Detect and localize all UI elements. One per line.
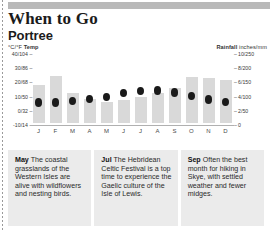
month-label: F: [47, 125, 64, 138]
page-title: When to Go: [8, 10, 98, 28]
month-label: D: [217, 125, 234, 138]
note-month: May: [15, 156, 29, 164]
rainfall-bar: [135, 97, 147, 123]
chart-column: [217, 54, 234, 123]
chart-column: [166, 54, 183, 123]
note-month: Jul: [101, 156, 111, 164]
rainfall-legend: Rainfall inches/mm: [216, 44, 267, 51]
right-axis-tick: – 8/200: [234, 65, 251, 71]
temp-units-label: °C/°F: [8, 44, 22, 50]
temperature-dot: [154, 86, 161, 94]
temperature-dot: [137, 87, 144, 95]
temperature-dot: [222, 98, 229, 106]
temperature-dot: [103, 93, 110, 101]
chart-column: [98, 54, 115, 123]
chart-column: [183, 54, 200, 123]
rainfall-bar: [101, 102, 113, 123]
note-month: Sep: [188, 156, 201, 164]
temp-series-label: Temp: [24, 44, 39, 50]
temperature-dot: [171, 88, 178, 96]
note-text: The Hebridean Celtic Festival is a top t…: [101, 156, 171, 198]
right-axis-tick: – 6/150: [234, 79, 251, 85]
temperature-dot: [86, 95, 93, 103]
top-banner: [8, 2, 270, 9]
month-note: Jul The Hebridean Celtic Festival is a t…: [94, 150, 177, 226]
right-axis-tick: – 0: [234, 122, 241, 128]
rainfall-bar: [152, 93, 164, 123]
temperature-dot: [120, 89, 127, 97]
month-label: J: [115, 125, 132, 138]
chart-column: [30, 54, 47, 123]
month-label: N: [200, 125, 217, 138]
climate-chart: 40/104 –30/86 –20/68 –10/50 –0/32 –-10/1…: [8, 52, 264, 138]
chart-column: [115, 54, 132, 123]
left-axis: 40/104 –30/86 –20/68 –10/50 –0/32 –-10/1…: [8, 54, 32, 123]
location-subtitle: Portree: [8, 29, 53, 43]
chart-column: [64, 54, 81, 123]
chart-column: [81, 54, 98, 123]
bar-series: [30, 54, 234, 123]
right-axis-tick: – 2/50: [234, 108, 248, 114]
rainfall-series-label: Rainfall: [216, 44, 237, 50]
left-axis-tick: 40/104 –: [12, 51, 32, 57]
chart-column: [149, 54, 166, 123]
month-label: O: [183, 125, 200, 138]
month-axis: JFMAMJJASOND: [30, 125, 234, 138]
temperature-dot: [35, 98, 42, 106]
when-to-go-infographic: When to Go Portree °C/°F Temp Rainfall i…: [0, 0, 272, 232]
chart-column: [47, 54, 64, 123]
right-axis-tick: – 4/100: [234, 94, 251, 100]
month-label: M: [98, 125, 115, 138]
rainfall-bar: [118, 100, 130, 123]
month-notes: May The coastal grasslands of the Wester…: [8, 150, 264, 226]
temperature-dot: [205, 95, 212, 103]
month-label: A: [81, 125, 98, 138]
right-axis: – 10/250– 8/200– 6/150– 4/100– 2/50– 0: [234, 54, 264, 123]
month-note: May The coastal grasslands of the Wester…: [8, 150, 91, 226]
temp-legend: °C/°F Temp: [8, 44, 39, 51]
month-label: J: [132, 125, 149, 138]
chart-column: [200, 54, 217, 123]
rainfall-units-label: inches/mm: [239, 44, 267, 50]
month-label: M: [64, 125, 81, 138]
chart-column: [132, 54, 149, 123]
page-edge-rule: [2, 0, 3, 232]
plot-area: [30, 54, 234, 123]
month-label: S: [166, 125, 183, 138]
right-axis-tick: – 10/250: [234, 51, 254, 57]
month-label: J: [30, 125, 47, 138]
month-note: Sep Often the best month for hiking in S…: [181, 150, 264, 226]
month-label: A: [149, 125, 166, 138]
temperature-dot: [52, 98, 59, 106]
